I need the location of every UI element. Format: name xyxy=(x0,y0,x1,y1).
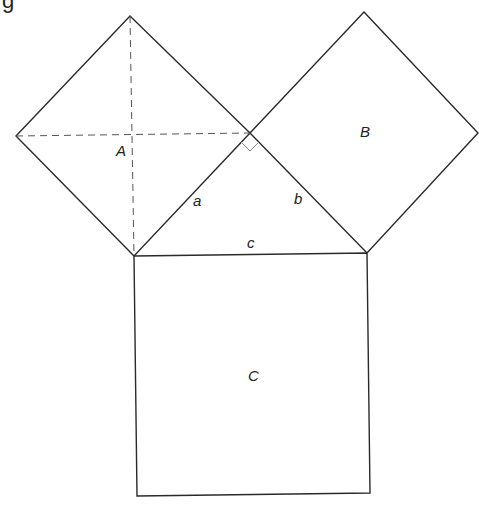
right-angle-marker xyxy=(241,142,259,151)
square-c: C xyxy=(134,253,370,496)
cropped-caption-glyph: g xyxy=(2,0,14,13)
square-a-vertical-diagonal xyxy=(130,16,134,256)
square-a: A xyxy=(16,16,250,256)
square-b: B xyxy=(250,12,478,253)
square-c-label: C xyxy=(248,367,259,384)
square-a-horizontal-diagonal xyxy=(16,133,250,136)
side-a-label: a xyxy=(193,192,201,209)
side-b-label: b xyxy=(294,190,302,207)
pythagorean-diagram: g A B C a b c xyxy=(0,0,479,511)
square-b-label: B xyxy=(360,123,370,140)
side-c-label: c xyxy=(247,234,255,251)
square-a-label: A xyxy=(115,142,126,159)
